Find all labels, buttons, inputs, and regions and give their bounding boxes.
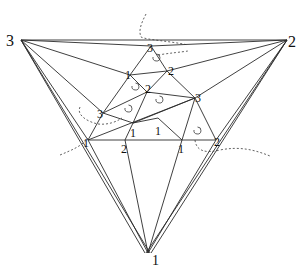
inner-label-base-right: 2: [214, 135, 220, 149]
inner-label-mid-center: 2: [145, 82, 151, 96]
ccw-circle-icon: [132, 83, 139, 90]
inner-label-center-right: 1: [155, 124, 161, 138]
inner-label-base-mid-left: 2: [121, 142, 127, 156]
inner-label-mid-right: 3: [195, 91, 201, 105]
inner-label-base-mid-right: 1: [178, 142, 184, 156]
edges-from-vertex-2: [151, 40, 287, 140]
inner-label-center-left: 1: [130, 126, 136, 140]
ccw-circle-icon: [194, 127, 201, 134]
outer-label-bottom: 1: [152, 253, 159, 268]
inner-label-upper-left: 1: [125, 68, 131, 82]
outer-label-right: 2: [288, 33, 296, 50]
triangulation-diagram: 3 2 1 3 1 2 2 3 3 1 1 1 2 1 2: [0, 0, 308, 274]
inner-label-base-left: 1: [83, 136, 89, 150]
ccw-circle-icon: [125, 105, 132, 112]
outer-label-left: 3: [6, 32, 14, 49]
inner-label-upper-right: 2: [168, 64, 174, 78]
outer-edges: [21, 40, 287, 253]
inner-label-top: 3: [147, 41, 153, 55]
edges-from-vertex-3: [21, 40, 151, 140]
dashed-paths: [60, 14, 270, 156]
inner-label-mid-left: 3: [97, 107, 103, 121]
ccw-circle-icon: [156, 96, 163, 103]
edges-from-vertex-1: [88, 140, 216, 253]
